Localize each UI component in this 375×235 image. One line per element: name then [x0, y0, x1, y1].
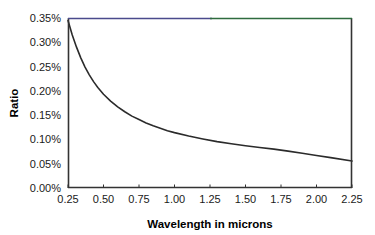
y-tick-label: 0.10%: [30, 133, 61, 145]
y-tick-label: 0.05%: [30, 158, 61, 170]
chart-container: 0.00%0.05%0.10%0.15%0.20%0.25%0.30%0.35%…: [0, 0, 375, 235]
x-tick-label: 1.50: [235, 193, 256, 205]
y-axis-title: Ratio: [8, 89, 20, 118]
ratio-vs-wavelength-chart: 0.00%0.05%0.10%0.15%0.20%0.25%0.30%0.35%…: [0, 0, 375, 235]
x-tick-label: 1.25: [199, 193, 220, 205]
x-tick-label: 0.75: [128, 193, 149, 205]
y-tick-label: 0.35%: [30, 12, 61, 24]
x-tick-label: 2.00: [306, 193, 327, 205]
plot-area: [68, 18, 352, 188]
y-tick-label: 0.15%: [30, 109, 61, 121]
x-tick-label: 0.25: [57, 193, 78, 205]
x-tick-label: 1.00: [164, 193, 185, 205]
y-tick-label: 0.25%: [30, 61, 61, 73]
x-axis-tick-labels: 0.250.500.751.001.251.501.752.002.25: [57, 193, 362, 205]
y-tick-label: 0.30%: [30, 36, 61, 48]
y-tick-label: 0.20%: [30, 85, 61, 97]
x-axis-title: Wavelength in microns: [147, 218, 272, 230]
x-tick-label: 1.75: [270, 193, 291, 205]
x-tick-label: 0.50: [93, 193, 114, 205]
x-tick-label: 2.25: [341, 193, 362, 205]
